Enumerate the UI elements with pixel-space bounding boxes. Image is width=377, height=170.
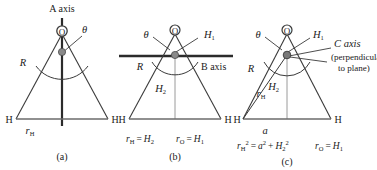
- equation-rh: rH=H2: [126, 134, 154, 145]
- panel-c-caption: (c): [281, 156, 292, 168]
- theta-label: θ: [255, 29, 260, 40]
- bond-o-h-left: [243, 34, 287, 119]
- panel-c: O θ H1 C axis (perpendicular to plane) R…: [235, 0, 377, 170]
- h2-label: H2: [154, 83, 166, 95]
- a-axis-label: A axis: [49, 3, 74, 14]
- panel-b-caption: (b): [169, 151, 181, 163]
- a-label: a: [262, 125, 267, 136]
- bond-o-h-right: [287, 34, 331, 119]
- panel-a-caption: (a): [56, 151, 67, 163]
- oxygen-atom-label: O: [172, 26, 179, 36]
- h1-leader-line: [176, 38, 198, 52]
- oxygen-atom-label: O: [59, 27, 66, 37]
- h2-label: H2: [267, 81, 279, 93]
- equation-rh-squared: rH2=a2+H22: [237, 139, 289, 152]
- rh-label: rH: [257, 88, 266, 100]
- h1-label: H1: [203, 29, 215, 41]
- panel-a: A axis θ R H H O rH (a): [0, 0, 125, 170]
- r-distance-label: R: [19, 57, 27, 68]
- r-distance-label: R: [136, 61, 144, 72]
- h1-leader-line: [288, 38, 310, 52]
- b-axis-label: B axis: [201, 61, 226, 72]
- theta-label: θ: [82, 24, 87, 35]
- c-axis-note-line2: to plane): [338, 63, 370, 73]
- h1-label: H1: [312, 29, 324, 41]
- r-distance-label: R: [247, 63, 255, 74]
- c-axis-label: C axis: [334, 38, 361, 49]
- rh-label: rH: [26, 125, 35, 137]
- bond-o-h-left: [16, 34, 62, 119]
- bond-o-h-left: [129, 34, 175, 119]
- c-axis-note-leader-line: [290, 57, 327, 62]
- hydrogen-left-label: H: [5, 114, 12, 125]
- equation-ro: rO=H1: [315, 141, 343, 152]
- hydrogen-right-label: H: [334, 114, 341, 125]
- theta-leader-line: [265, 37, 282, 50]
- equation-ro: rO=H1: [176, 134, 204, 145]
- panel-b: O θ H1 R B axis H2 H H rH=H2 rO=H1 (b): [118, 0, 240, 170]
- center-of-mass-dot: [58, 48, 65, 55]
- c-axis-note-line1: (perpendicular: [331, 52, 377, 62]
- oxygen-atom-label: O: [284, 26, 291, 36]
- bond-o-h-right: [175, 34, 221, 119]
- figure-water-rotation-axes: A axis θ R H H O rH (a): [0, 0, 377, 170]
- hydrogen-right-label: H: [224, 114, 231, 125]
- center-of-mass-dot: [171, 51, 178, 58]
- theta-leader-line: [153, 37, 170, 50]
- hydrogen-left-label: H: [233, 114, 240, 125]
- theta-label: θ: [143, 29, 148, 40]
- center-of-mass-dot: [283, 51, 291, 59]
- hydrogen-left-label: H: [118, 114, 125, 125]
